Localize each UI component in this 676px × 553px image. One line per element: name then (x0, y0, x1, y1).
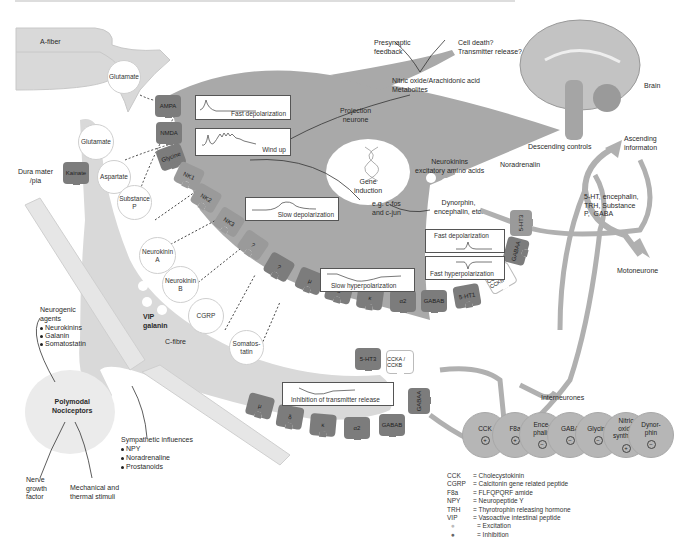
receptor-5ht1: 5-HT1 (452, 283, 481, 309)
brain-label: Brain (644, 82, 660, 91)
neurokinins-label: Neurokinins excitatory amino acids (415, 158, 484, 175)
receptor-kainate: Kainate (63, 162, 89, 184)
legend-row-inhibition: ●= Inhibition (447, 531, 571, 539)
ascending-information-label: Ascending informaton (624, 135, 657, 152)
legend-row: TRH= Thyrotrophin releasing hormone (447, 506, 571, 514)
legend-row: NPY= Neuropeptide Y (447, 497, 571, 505)
receptor-gabab: GABAB (421, 290, 447, 312)
abbreviation-legend: CCK= Cholecystokinin CGRP= Calcitonin ge… (447, 472, 571, 539)
noradrenalin-label: Noradrenalin (500, 161, 540, 170)
interneurone-dynorphin: Dynor- phin− (628, 412, 674, 458)
vip-galanin-label: VIP galanin (143, 313, 168, 330)
trace-wind-up: Wind up (195, 128, 291, 156)
receptor-nmda: NMDA (156, 122, 182, 144)
pain-pathway-diagram: A-fiber C-fibre Dura mater /pia Glutamat… (0, 0, 676, 553)
presyn-receptor-cck: CCKA / CCKB (386, 350, 414, 374)
trace-fast-depolarization-2: Fast depolarization (425, 229, 505, 253)
legend-row: CCK= Cholecystokinin (447, 472, 571, 480)
presyn-receptor-gabab: GABAB (379, 414, 405, 436)
descending-controls-label: Descending controls (528, 143, 591, 152)
vesicle-glutamate-c: Glutamate (78, 124, 114, 160)
sympathetic-title: Sympathetic influences (121, 436, 193, 445)
dna-helix-icon (360, 145, 390, 185)
vesicle-substance-p: Substance P (117, 185, 152, 220)
receptor-ampa: AMPA (155, 95, 181, 117)
neurogenic-agents-title: Neurogenic agents (40, 306, 76, 323)
presyn-receptor-alpha2: α2 (344, 417, 370, 439)
receptor-alpha2: α2 (390, 290, 416, 312)
legend-row: CGRP= Calcitonin gene related peptide (447, 480, 571, 488)
mechanical-stimuli-label: Mechanical and thermal stimuli (70, 484, 119, 501)
legend-row: VIP= Vasoactive intestinal peptide (447, 514, 571, 522)
vesicle-somatostatin: Somatos- tatin (229, 330, 264, 365)
projection-neurone-label: Projection neurone (340, 107, 371, 124)
trace-fast-hyperpolarization: Fast hyperpolarization (425, 256, 505, 280)
sympathetic-item-3: Prostanoids (121, 463, 163, 472)
cfos-label: e.g. c-fos and c-jun (372, 200, 401, 217)
sympathetic-item-1: NPY (121, 445, 140, 454)
sympathetic-item-2: Noradrenaline (121, 454, 170, 463)
dynorphin-label: Dynorphin, encephalin, etc. (434, 199, 483, 216)
presyn-receptor-delta: δ (275, 404, 304, 430)
trace-inhibition-release: Inhibition of transmitter release (282, 382, 394, 406)
presyn-receptor-kappa: κ (309, 413, 337, 437)
nerve-growth-factor-label: Nerve growth factor (26, 476, 47, 502)
nitric-oxide-label: Nitric oxide/Arachidonic acid Metabolite… (392, 77, 480, 94)
legend-row: F8a= FLFQPQRF amide (447, 489, 571, 497)
interneurones-label: Interneurones (541, 394, 584, 403)
presyn-receptor-5ht3: 5-HT3 (355, 348, 381, 370)
presyn-receptor-gabaa: GABAA (408, 388, 430, 414)
presynaptic-feedback-label: Presynaptic feedback (374, 39, 411, 56)
c-fibre-label: C-fibre (165, 338, 186, 347)
dura-mater-label: Dura mater /pia (18, 168, 53, 185)
neurogenic-item-3: Somatostatin (40, 340, 86, 349)
motoneurone-label: Motoneurone (617, 267, 658, 276)
a-fiber-label: A-fiber (40, 38, 61, 47)
legend-row-excitation: ●= Excitation (447, 522, 571, 530)
vesicle-neurokinin-b: Neurokinin B (162, 266, 199, 303)
vesicle-cgrp: CGRP (188, 298, 224, 334)
inhibition-dot-icon: ● (447, 531, 477, 539)
trace-slow-depolarization: Slow depolarization (245, 197, 339, 221)
trace-fast-depolarization: Fast depolarization (195, 95, 291, 120)
descending-mediators-label: 5-HT, encephalin, TRH, Substance P, GABA (584, 193, 638, 219)
cell-death-label: Cell death? Transmitter release? (458, 39, 522, 56)
excitation-dot-icon: ● (447, 522, 477, 530)
polymodal-nociceptors-label: Polymodal Nociceptors (52, 398, 92, 415)
vesicle-glutamate-a: Glutamate (107, 60, 141, 94)
receptor-5ht3: 5-HT3 (510, 210, 532, 236)
trace-slow-hyperpolarization: Slow hyperpolarization (320, 268, 415, 292)
